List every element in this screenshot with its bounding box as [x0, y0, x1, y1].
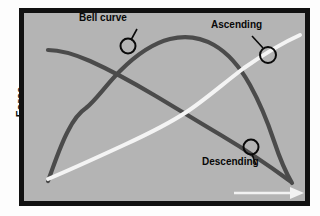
- callout-label-ascending: Ascending: [211, 19, 262, 30]
- callout-label-bell-curve: Bell curve: [79, 12, 127, 23]
- time-direction-arrow: [234, 187, 304, 199]
- callout-marker-bell-curve[interactable]: [121, 39, 136, 54]
- plot-frame: [19, 8, 310, 206]
- plot-area: [24, 13, 305, 201]
- callout-label-descending: Descending: [202, 156, 259, 167]
- callout-leader-ascending: [252, 36, 263, 48]
- figure-container: Force Bell curve Ascendi: [0, 0, 320, 216]
- callout-leader-bell-curve: [131, 29, 137, 40]
